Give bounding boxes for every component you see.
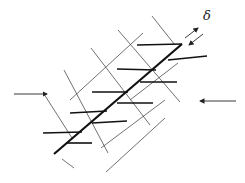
grid-line <box>62 159 74 168</box>
compression-arrows <box>14 94 236 101</box>
fracture-line <box>43 132 82 133</box>
grid-line <box>101 100 165 148</box>
main-fault-line <box>54 44 182 154</box>
fault-shear-diagram <box>0 0 245 183</box>
grid-line <box>70 33 143 100</box>
fracture-line <box>92 121 127 123</box>
shear-arrow <box>185 28 198 38</box>
grid-line <box>152 16 175 45</box>
delta-label: δ <box>203 8 211 23</box>
fracture-line <box>117 69 156 70</box>
grid-line <box>44 94 72 138</box>
fracture-line <box>168 56 207 60</box>
shear-arrow <box>189 34 203 45</box>
grid-line <box>106 118 165 172</box>
fracture-line <box>137 44 182 45</box>
shear-arrows <box>185 28 203 45</box>
